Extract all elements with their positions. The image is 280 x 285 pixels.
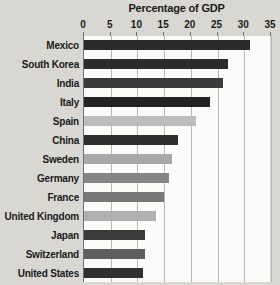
- bar-italy: [84, 97, 210, 107]
- x-tick-label-35: 35: [264, 19, 275, 30]
- chart-row: Spain: [0, 112, 280, 131]
- chart-row: Japan: [0, 225, 280, 244]
- category-label-spain: Spain: [53, 116, 79, 127]
- x-tick-mark-30: [243, 32, 244, 36]
- bar-france: [84, 192, 164, 202]
- category-label-japan: Japan: [51, 229, 79, 240]
- category-label-sweden: Sweden: [42, 153, 79, 164]
- chart-row: South Korea: [0, 55, 280, 74]
- category-label-india: India: [57, 78, 79, 89]
- x-tick-label-0: 0: [80, 19, 86, 30]
- category-label-switzerland: Switzerland: [26, 248, 79, 259]
- chart-row: United Kingdom: [0, 206, 280, 225]
- chart-row: Italy: [0, 93, 280, 112]
- chart-row: France: [0, 187, 280, 206]
- x-tick-mark-0: [83, 32, 84, 36]
- category-label-mexico: Mexico: [46, 40, 79, 51]
- bar-china: [84, 135, 178, 145]
- chart-row: Germany: [0, 168, 280, 187]
- bar-chart: Percentage of GDP 05101520253035 MexicoS…: [0, 0, 280, 285]
- category-label-germany: Germany: [37, 172, 79, 183]
- x-axis-tick-labels: 05101520253035: [0, 19, 280, 33]
- x-tick-mark-15: [163, 32, 164, 36]
- bar-sweden: [84, 154, 172, 164]
- chart-row: Switzerland: [0, 244, 280, 263]
- x-tick-label-30: 30: [238, 19, 249, 30]
- bar-india: [84, 78, 223, 88]
- x-tick-mark-25: [217, 32, 218, 36]
- bar-japan: [84, 230, 145, 240]
- bar-switzerland: [84, 249, 145, 259]
- bar-spain: [84, 116, 196, 126]
- x-tick-label-20: 20: [184, 19, 195, 30]
- x-tick-mark-5: [110, 32, 111, 36]
- category-label-france: France: [47, 191, 79, 202]
- category-label-italy: Italy: [60, 97, 79, 108]
- bar-mexico: [84, 40, 250, 50]
- category-label-china: China: [52, 135, 79, 146]
- x-tick-mark-20: [190, 32, 191, 36]
- bar-united-states: [84, 268, 143, 278]
- chart-row: Mexico: [0, 36, 280, 55]
- chart-row: India: [0, 74, 280, 93]
- bar-germany: [84, 173, 169, 183]
- x-tick-label-15: 15: [158, 19, 169, 30]
- chart-row: China: [0, 131, 280, 150]
- x-tick-label-5: 5: [107, 19, 113, 30]
- chart-rows: MexicoSouth KoreaIndiaItalySpainChinaSwe…: [0, 36, 280, 282]
- bar-united-kingdom: [84, 211, 156, 221]
- x-tick-label-10: 10: [131, 19, 142, 30]
- x-tick-mark-35: [270, 32, 271, 36]
- bar-south-korea: [84, 59, 228, 69]
- chart-row: United States: [0, 263, 280, 282]
- x-tick-label-25: 25: [211, 19, 222, 30]
- category-label-south-korea: South Korea: [22, 59, 79, 70]
- chart-row: Sweden: [0, 150, 280, 169]
- category-label-united-states: United States: [18, 267, 79, 278]
- x-tick-mark-10: [136, 32, 137, 36]
- category-label-united-kingdom: United Kingdom: [5, 210, 79, 221]
- chart-title: Percentage of GDP: [83, 2, 270, 14]
